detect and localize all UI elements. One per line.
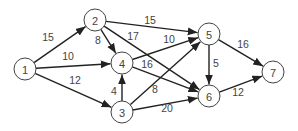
node-7: 7 — [262, 61, 284, 83]
edge-weight-label: 5 — [213, 57, 219, 69]
node-1: 1 — [14, 58, 36, 80]
edge-weight-label: 12 — [69, 74, 81, 86]
node-label: 6 — [206, 91, 212, 103]
node-3: 3 — [111, 101, 133, 123]
edge-weight-label: 8 — [152, 83, 158, 95]
node-label: 4 — [119, 58, 125, 70]
edge-weight-label: 10 — [62, 50, 74, 62]
edge-weight-label: 12 — [232, 86, 244, 98]
node-label: 5 — [206, 29, 212, 41]
node-4: 4 — [111, 52, 133, 74]
node-label: 2 — [92, 15, 98, 27]
node-6: 6 — [198, 85, 220, 107]
edge-weight-label: 10 — [163, 33, 175, 45]
edge-weight-label: 15 — [42, 31, 54, 43]
node-label: 1 — [22, 64, 28, 76]
network-graph: 151012815174820101651612 1234567 — [0, 0, 298, 131]
edge-weight-label: 16 — [141, 58, 153, 70]
edge-1-4 — [36, 64, 111, 69]
edge-4-6 — [132, 67, 198, 92]
node-label: 3 — [119, 107, 125, 119]
edge-weight-label: 20 — [161, 102, 173, 114]
node-2: 2 — [84, 9, 106, 31]
arrow-icon — [36, 64, 111, 69]
node-5: 5 — [198, 23, 220, 45]
node-label: 7 — [270, 67, 276, 79]
edge-weight-label: 4 — [111, 85, 117, 97]
edge-weight-label: 17 — [127, 30, 139, 42]
edge-weight-label: 8 — [95, 34, 101, 46]
edge-weight-label: 15 — [144, 14, 156, 26]
arrow-icon — [132, 67, 198, 92]
edge-weight-label: 16 — [237, 38, 249, 50]
